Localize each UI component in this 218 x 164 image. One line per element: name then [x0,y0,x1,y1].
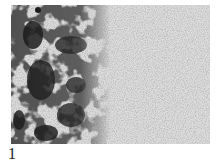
micrograph-image [11,5,210,144]
panel-label: 1 [8,146,16,162]
micrograph-texture [11,5,210,144]
